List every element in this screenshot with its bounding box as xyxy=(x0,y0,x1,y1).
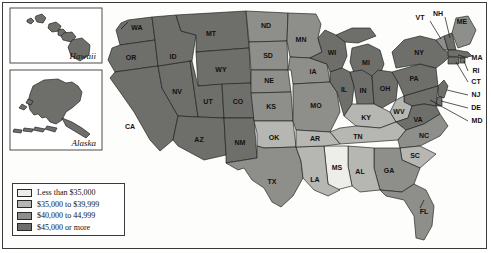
svg-text:ME: ME xyxy=(457,18,468,25)
hawaii-inset-label: Hawaii xyxy=(68,51,96,61)
svg-text:SC: SC xyxy=(410,152,420,159)
svg-text:VT: VT xyxy=(416,14,426,21)
svg-text:OR: OR xyxy=(126,54,137,61)
svg-text:MS: MS xyxy=(332,164,343,171)
svg-text:NJ: NJ xyxy=(472,91,481,98)
legend-swatch-4 xyxy=(17,223,32,231)
svg-text:SD: SD xyxy=(263,52,273,59)
legend-item: Less than $35,000 xyxy=(17,187,120,199)
svg-text:IA: IA xyxy=(310,68,317,75)
svg-text:NM: NM xyxy=(235,139,246,146)
svg-text:IN: IN xyxy=(360,87,367,94)
svg-text:KY: KY xyxy=(361,114,371,121)
svg-text:RI: RI xyxy=(473,67,480,74)
svg-text:ID: ID xyxy=(170,53,177,60)
svg-text:NE: NE xyxy=(264,77,274,84)
legend: Less than $35,000 $35,000 to $39,999 $40… xyxy=(12,183,125,236)
svg-text:MA: MA xyxy=(472,54,483,61)
legend-item: $35,000 to $39,999 xyxy=(17,199,120,211)
map-figure: Hawaii Alaska xyxy=(0,0,491,253)
svg-text:LA: LA xyxy=(310,176,319,183)
svg-text:MI: MI xyxy=(362,59,370,66)
svg-text:VA: VA xyxy=(413,116,422,123)
legend-swatch-2 xyxy=(17,200,32,208)
svg-text:NH: NH xyxy=(433,10,443,17)
state-NJ xyxy=(438,80,448,98)
svg-text:AR: AR xyxy=(310,135,320,142)
svg-text:CO: CO xyxy=(233,98,244,105)
svg-text:PA: PA xyxy=(409,75,418,82)
legend-item: $45,000 or more xyxy=(17,222,120,234)
state-CT xyxy=(448,57,459,64)
svg-text:TX: TX xyxy=(268,178,277,185)
svg-text:OK: OK xyxy=(269,134,280,141)
legend-item: $40,000 to 44,999 xyxy=(17,210,120,222)
legend-label-2: $35,000 to $39,999 xyxy=(37,200,99,209)
svg-text:AZ: AZ xyxy=(194,136,204,143)
svg-text:GA: GA xyxy=(384,167,395,174)
svg-text:WI: WI xyxy=(328,49,337,56)
legend-swatch-1 xyxy=(17,189,32,197)
svg-text:OH: OH xyxy=(380,85,391,92)
alaska-inset-label: Alaska xyxy=(71,138,97,148)
svg-text:DE: DE xyxy=(471,104,481,111)
legend-label-1: Less than $35,000 xyxy=(37,188,95,197)
svg-text:NC: NC xyxy=(419,132,429,139)
svg-text:CT: CT xyxy=(471,78,481,85)
svg-text:FL: FL xyxy=(420,208,429,215)
svg-text:IL: IL xyxy=(341,86,348,93)
svg-text:KS: KS xyxy=(266,103,276,110)
svg-text:WA: WA xyxy=(131,24,142,31)
svg-text:MT: MT xyxy=(206,30,217,37)
svg-text:WV: WV xyxy=(393,108,405,115)
svg-text:MN: MN xyxy=(296,36,307,43)
svg-text:NV: NV xyxy=(172,88,182,95)
svg-text:MO: MO xyxy=(310,102,322,109)
svg-text:UT: UT xyxy=(203,98,213,105)
svg-text:AL: AL xyxy=(355,168,365,175)
legend-label-4: $45,000 or more xyxy=(37,223,90,232)
svg-text:MD: MD xyxy=(472,117,483,124)
legend-label-3: $40,000 to 44,999 xyxy=(37,211,95,220)
svg-text:ND: ND xyxy=(261,22,271,29)
svg-text:TN: TN xyxy=(353,133,362,140)
svg-text:WY: WY xyxy=(215,66,227,73)
svg-text:NY: NY xyxy=(414,49,424,56)
legend-swatch-3 xyxy=(17,212,32,220)
svg-text:CA: CA xyxy=(125,123,135,130)
